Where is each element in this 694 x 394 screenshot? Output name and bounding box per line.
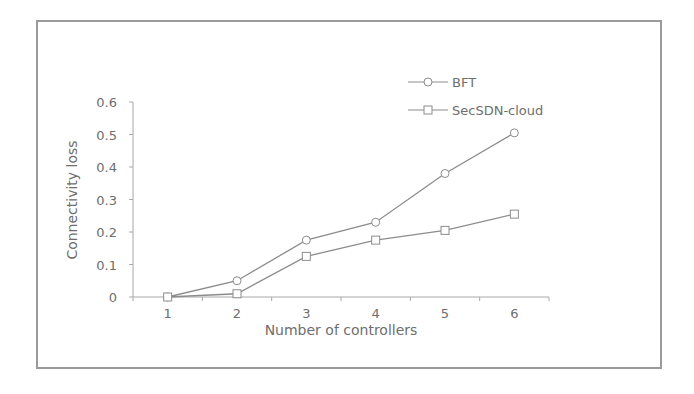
- data-point-circle: [510, 129, 518, 137]
- data-point-square: [302, 252, 310, 260]
- data-point-square: [510, 210, 518, 218]
- line-chart: 00.10.20.30.40.50.6 123456 Number of con…: [0, 0, 694, 394]
- legend-item-secsdn-cloud: SecSDN-cloud: [408, 103, 543, 118]
- y-axis-ticks: 00.10.20.30.40.50.6: [96, 95, 133, 305]
- y-tick-label: 0: [109, 290, 117, 305]
- x-axis-title: Number of controllers: [265, 322, 418, 338]
- x-tick-label: 4: [372, 306, 380, 321]
- legend-label-bft: BFT: [452, 75, 476, 90]
- data-point-circle: [233, 277, 241, 285]
- y-tick-label: 0.4: [96, 160, 117, 175]
- data-point-square: [233, 290, 241, 298]
- x-tick-label: 2: [233, 306, 241, 321]
- x-axis-ticks: 123456: [133, 297, 549, 321]
- data-point-circle: [372, 218, 380, 226]
- y-tick-label: 0.2: [96, 225, 117, 240]
- series-bft: [164, 129, 519, 301]
- data-point-square: [372, 236, 380, 244]
- square-marker-icon: [424, 106, 432, 114]
- data-point-square: [441, 226, 449, 234]
- x-tick-label: 3: [302, 306, 310, 321]
- series-group: [164, 129, 519, 301]
- y-tick-label: 0.1: [96, 258, 117, 273]
- series-line: [168, 133, 515, 297]
- legend: BFT SecSDN-cloud: [408, 75, 543, 118]
- x-tick-label: 1: [164, 306, 172, 321]
- x-tick-label: 6: [510, 306, 518, 321]
- y-tick-label: 0.3: [96, 193, 117, 208]
- x-tick-label: 5: [441, 306, 449, 321]
- y-axis-title: Connectivity loss: [64, 140, 80, 259]
- data-point-circle: [302, 236, 310, 244]
- data-point-square: [164, 293, 172, 301]
- data-point-circle: [441, 170, 449, 178]
- circle-marker-icon: [424, 78, 432, 86]
- y-tick-label: 0.5: [96, 128, 117, 143]
- series-secsdn-cloud: [164, 210, 519, 301]
- y-tick-label: 0.6: [96, 95, 117, 110]
- legend-label-secsdn-cloud: SecSDN-cloud: [452, 103, 543, 118]
- legend-item-bft: BFT: [408, 75, 476, 90]
